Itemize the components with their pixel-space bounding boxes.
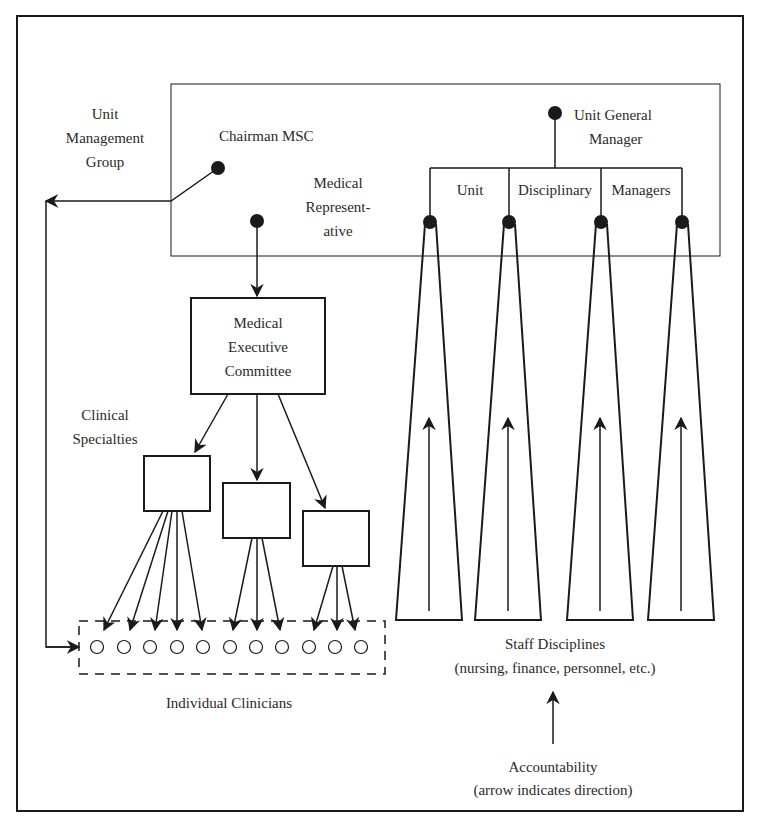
clinicians-to-management-line	[46, 201, 78, 647]
svg-text:Specialties: Specialties	[73, 431, 138, 447]
svg-text:Unit: Unit	[457, 182, 485, 198]
svg-text:Disciplinary: Disciplinary	[518, 182, 593, 198]
staff-discipline-column	[648, 215, 714, 620]
svg-text:Executive: Executive	[228, 339, 288, 355]
staff-discipline-column	[396, 215, 462, 620]
unit-general-manager-label: Unit General Manager	[574, 107, 652, 147]
chairman-link	[46, 168, 218, 201]
staff-discipline-column	[567, 215, 633, 620]
svg-text:Medical: Medical	[313, 175, 362, 191]
svg-text:Accountability: Accountability	[508, 759, 598, 775]
clinical-specialties-label: Clinical Specialties	[73, 407, 138, 447]
svg-text:Group: Group	[86, 154, 124, 170]
svg-text:(arrow indicates direction): (arrow indicates direction)	[473, 782, 632, 799]
medical-executive-committee-label: Medical Executive Committee	[225, 315, 292, 379]
svg-text:Represent-: Represent-	[306, 199, 371, 215]
unit-disciplinary-managers-label: Unit Disciplinary Managers	[457, 182, 671, 198]
medical-representative-label: Medical Represent- ative	[306, 175, 371, 239]
clinical-specialty-box	[144, 456, 210, 511]
individual-clinicians-label: Individual Clinicians	[166, 695, 292, 711]
accountability-legend-label: Accountability (arrow indicates directio…	[473, 759, 632, 799]
svg-text:Managers: Managers	[611, 182, 670, 198]
svg-text:Unit: Unit	[92, 106, 120, 122]
specialty-to-clinician-arrows	[104, 511, 355, 630]
staff-discipline-column	[475, 215, 541, 620]
svg-text:ative: ative	[323, 223, 352, 239]
svg-text:(nursing, finance, personnel,: (nursing, finance, personnel, etc.)	[454, 660, 655, 677]
chairman-msc-label: Chairman MSC	[219, 128, 314, 144]
unit-management-group-label: Unit Management Group	[66, 106, 145, 170]
svg-text:Staff Disciplines: Staff Disciplines	[505, 636, 605, 652]
individual-clinician-nodes	[91, 641, 368, 654]
svg-text:Medical: Medical	[233, 315, 282, 331]
svg-text:Management: Management	[66, 130, 145, 146]
svg-text:Committee: Committee	[225, 363, 292, 379]
clinical-specialty-box	[303, 511, 369, 566]
svg-text:Clinical: Clinical	[81, 407, 129, 423]
accountability-diagram: Unit Management Group Chairman MSC Medic…	[0, 0, 760, 833]
svg-text:Unit General: Unit General	[574, 107, 652, 123]
clinical-specialty-box	[223, 483, 290, 538]
svg-text:Manager: Manager	[589, 131, 642, 147]
staff-disciplines-label: Staff Disciplines (nursing, finance, per…	[454, 636, 655, 677]
